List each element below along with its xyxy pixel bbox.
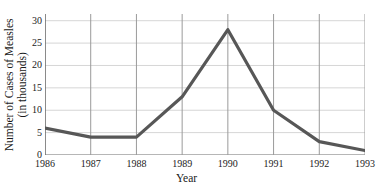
x-tick-label: 1990 bbox=[208, 158, 248, 169]
x-tick-label: 1991 bbox=[254, 158, 294, 169]
x-tick-label: 1992 bbox=[299, 158, 339, 169]
x-tick-label: 1988 bbox=[116, 158, 156, 169]
y-tick-label: 10 bbox=[26, 105, 42, 115]
y-tick-label: 25 bbox=[26, 38, 42, 48]
y-tick-label: 15 bbox=[26, 83, 42, 93]
plot-area bbox=[45, 14, 365, 155]
x-tick-label: 1989 bbox=[162, 158, 202, 169]
y-tick-label: 20 bbox=[26, 60, 42, 70]
chart-svg bbox=[45, 14, 365, 155]
x-tick-label: 1993 bbox=[345, 158, 380, 169]
vertical-gridlines bbox=[45, 14, 365, 155]
y-tick-label: 30 bbox=[26, 16, 42, 26]
x-tick-label: 1987 bbox=[71, 158, 111, 169]
y-axis-title-line1: Number of Cases of Measles bbox=[2, 19, 15, 152]
x-axis-title: Year bbox=[0, 172, 373, 184]
x-axis-tick-labels: 19861987198819891990199119921993 bbox=[0, 158, 373, 172]
x-tick-label: 1986 bbox=[25, 158, 65, 169]
y-tick-label: 5 bbox=[26, 128, 42, 138]
horizontal-gridlines bbox=[45, 21, 365, 155]
